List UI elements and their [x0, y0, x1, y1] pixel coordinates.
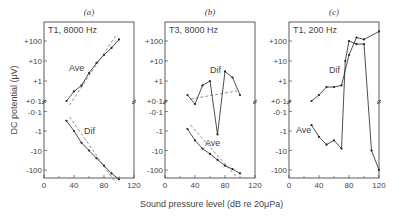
y-tick-label: -0·1 [28, 108, 43, 117]
series-label: Dif [84, 126, 95, 136]
panel-label: (a) [84, 7, 95, 17]
x-tick-label: 80 [345, 181, 354, 190]
series-label: Ave [69, 63, 84, 73]
y-tick-label: -100 [26, 166, 43, 175]
y-tick-label: -10 [30, 147, 42, 156]
y-tick-label: +10 [149, 57, 163, 66]
y-tick-label: -1 [35, 127, 43, 136]
y-tick-label: -1 [156, 127, 164, 136]
y-tick-label: -100 [147, 166, 164, 175]
panel-title: T1, 8000 Hz [48, 25, 98, 35]
y-tick-label: +1 [33, 77, 43, 86]
x-tick-label: 120 [127, 181, 141, 190]
series-label: Ave [205, 138, 220, 148]
x-tick-label: 0 [287, 181, 292, 190]
y-tick-label: +1 [278, 77, 288, 86]
y-tick-label: -10 [275, 147, 287, 156]
y-tick-label: +0·1 [271, 97, 288, 106]
y-tick-label: +10 [273, 57, 287, 66]
x-tick-label: 40 [315, 181, 324, 190]
series-label: Dif [210, 65, 221, 75]
panel-a: (a)T1, 8000 Hz+100+10+1+0·1-0·1-1-10-100… [24, 7, 141, 190]
figure: (a)T1, 8000 Hz+100+10+1+0·1-0·1-1-10-100… [0, 0, 395, 221]
y-tick-label: -0·1 [149, 108, 164, 117]
y-tick-label: -1 [280, 127, 288, 136]
y-tick-label: +100 [24, 37, 43, 46]
panel-label: (b) [205, 7, 216, 17]
y-tick-label: -0·1 [273, 108, 288, 117]
y-axis-label: DC potential (μV) [9, 55, 19, 145]
y-tick-label: +100 [269, 37, 288, 46]
y-tick-label: -100 [271, 166, 288, 175]
y-tick-label: +10 [28, 57, 42, 66]
x-tick-label: 40 [191, 181, 200, 190]
series-label: Ave [296, 125, 311, 135]
y-tick-label: +0·1 [26, 97, 43, 106]
x-tick-label: 120 [248, 181, 262, 190]
x-tick-label: 120 [372, 181, 386, 190]
panel-title: T3, 8000 Hz [169, 25, 219, 35]
panel-c: (c)T1, 200 Hz+100+10+1+0·1-0·1-1-10-1000… [269, 7, 386, 190]
panel-title: T1, 200 Hz [293, 25, 338, 35]
x-tick-label: 40 [70, 181, 79, 190]
y-tick-label: +0·1 [147, 97, 164, 106]
x-tick-label: 0 [163, 181, 168, 190]
panel-b: (b)T3, 8000 Hz+100+10+1+0·1-0·1-1-10-100… [145, 7, 262, 190]
y-tick-label: +1 [154, 77, 164, 86]
series-line-dif [188, 71, 241, 134]
y-tick-label: -10 [151, 147, 163, 156]
y-tick-label: +100 [145, 37, 164, 46]
panel-label: (c) [329, 7, 339, 17]
x-axis-label: Sound pressure level (dB re 20μPa) [140, 199, 283, 209]
x-tick-label: 80 [100, 181, 109, 190]
series-label: Dif [329, 65, 340, 75]
x-tick-label: 80 [221, 181, 230, 190]
x-tick-label: 0 [42, 181, 47, 190]
